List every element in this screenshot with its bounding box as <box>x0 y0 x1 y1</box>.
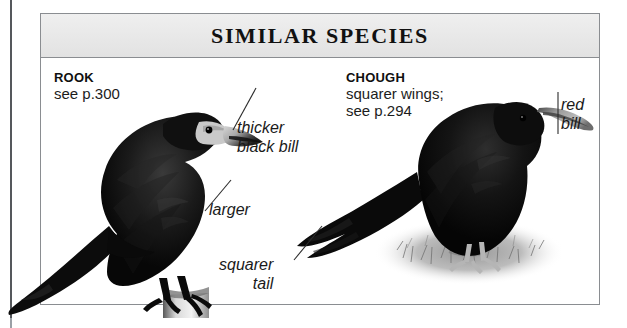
species-reference-rook[interactable]: see p.300 <box>54 85 120 102</box>
chough-head <box>493 102 544 145</box>
species-reference-chough[interactable]: squarer wings; see p.294 <box>346 85 444 119</box>
callout-thicker-black-bill: thicker black bill <box>237 118 298 156</box>
similar-species-panel: SIMILAR SPECIES <box>40 13 600 305</box>
panel-body: ROOK see p.300 CHOUGH squarer wings; see… <box>41 58 599 304</box>
page-title: SIMILAR SPECIES <box>211 23 429 49</box>
page-gutter-rule <box>10 0 12 318</box>
species-name-chough: CHOUGH <box>346 70 444 85</box>
rook-tail <box>8 226 121 315</box>
species-name-rook: ROOK <box>54 70 120 85</box>
species-label-chough: CHOUGH squarer wings; see p.294 <box>346 70 444 119</box>
chough-eye <box>520 115 526 121</box>
callout-larger: larger <box>209 200 250 219</box>
callout-squarer-tail: squarer tail <box>219 255 273 293</box>
rook-eye <box>206 127 213 134</box>
page-gutter-rule-lower <box>10 318 12 328</box>
callout-red-bill: red bill <box>561 95 584 133</box>
species-label-rook: ROOK see p.300 <box>54 70 120 102</box>
illustration-page: SIMILAR SPECIES <box>0 0 627 328</box>
